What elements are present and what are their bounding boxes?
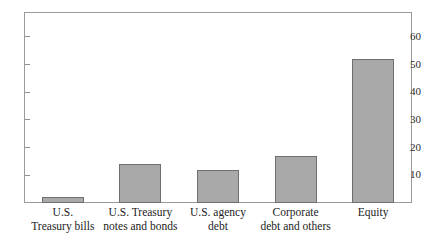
bar [352,59,394,203]
bar [42,197,84,203]
bar [119,164,161,203]
bar-series [24,12,412,203]
x-axis-label-line2: debt and others [241,219,351,233]
x-axis-label-line1: Equity [318,205,426,219]
bar [275,156,317,203]
x-axis: U.S.Treasury billsU.S. Treasurynotes and… [24,205,412,246]
x-axis-category-label: Equity [318,205,426,219]
bar [197,170,239,203]
chart-title [0,0,421,9]
